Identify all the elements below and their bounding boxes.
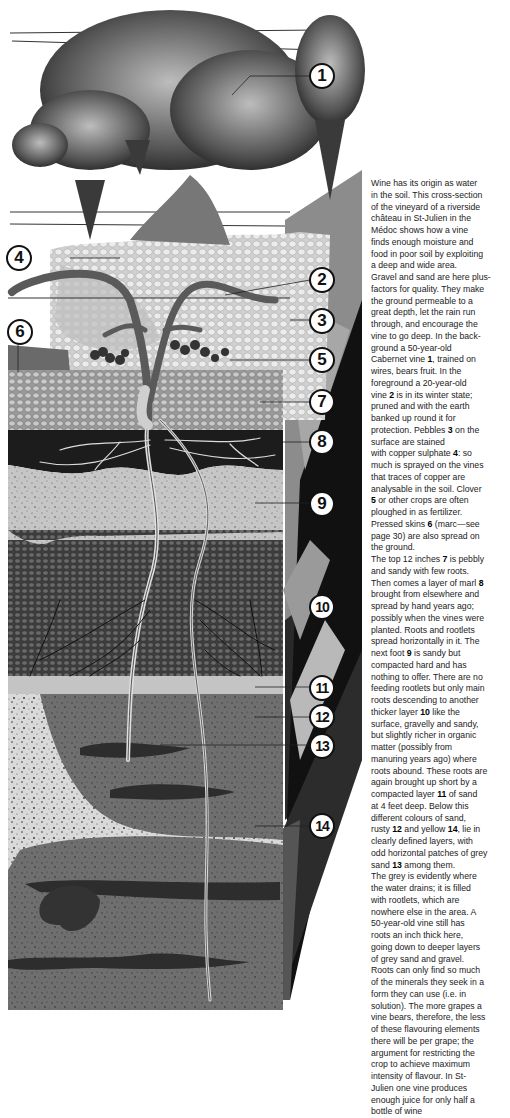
caption-line: compacted hard and has <box>371 660 509 672</box>
caption-text: Wine has its origin as waterin the soil.… <box>371 178 509 1118</box>
caption-line: nothing to offer. There are no <box>371 672 509 684</box>
callout-2: 2 <box>309 267 335 293</box>
caption-line: sand 13 among them. <box>371 860 509 872</box>
callout-6: 6 <box>7 319 33 345</box>
callout-reference: 4 <box>453 448 458 458</box>
callout-12: 12 <box>309 704 335 730</box>
caption-line: manuring years ago) where <box>371 754 509 766</box>
caption-line: great depth, let the rain run <box>371 307 509 319</box>
caption-line: planted. Roots and rootlets <box>371 625 509 637</box>
caption-line: spread horizontally in it. The <box>371 636 509 648</box>
callout-3: 3 <box>309 308 335 334</box>
caption-line: with copper sulphate 4: so <box>371 448 509 460</box>
caption-line: nowhere else in the area. A <box>371 907 509 919</box>
caption-line: Julien one vine produces <box>371 1083 509 1095</box>
caption-line: feeding rootlets but only main <box>371 683 509 695</box>
caption-line: roots an inch thick here, <box>371 930 509 942</box>
callout-reference: 10 <box>420 707 430 717</box>
caption-line: factors for quality. They make <box>371 284 509 296</box>
callout-4: 4 <box>6 245 32 271</box>
callout-11: 11 <box>309 675 335 701</box>
caption-line: in the soil. This cross-section <box>371 190 509 202</box>
caption-line: there will be per grape; the <box>371 1036 509 1048</box>
caption-line: intensity of flavour. In St- <box>371 1071 509 1083</box>
callout-13: 13 <box>309 733 335 759</box>
caption-line: thicker layer 10 like the <box>371 707 509 719</box>
caption-line: foreground a 20-year-old <box>371 378 509 390</box>
caption-line: argument for restricting the <box>371 1048 509 1060</box>
caption-line: analysable in the soil. Clover <box>371 484 509 496</box>
caption-line: at 4 feet deep. Below this <box>371 801 509 813</box>
callout-10: 10 <box>309 594 335 620</box>
caption-line: vine bears, therefore, the less <box>371 1012 509 1024</box>
caption-line: surface are stained <box>371 437 509 449</box>
caption-line: with rootlets, which are <box>371 895 509 907</box>
callout-reference: 6 <box>428 519 433 529</box>
caption-line: of these flavouring elements <box>371 1024 509 1036</box>
callout-reference: 3 <box>448 425 453 435</box>
callout-reference: 8 <box>479 578 484 588</box>
caption-line: finds enough moisture and <box>371 237 509 249</box>
caption-line: that traces of copper are <box>371 472 509 484</box>
caption-line: surface, gravelly and sandy, <box>371 719 509 731</box>
caption-line: next foot 9 is sandy but <box>371 648 509 660</box>
caption-line: vine to go deep. In the back- <box>371 331 509 343</box>
caption-line: wires, bears fruit. In the <box>371 366 509 378</box>
callout-reference: 7 <box>442 554 447 564</box>
callout-reference: 9 <box>407 648 412 658</box>
callout-reference: 14 <box>448 824 458 834</box>
callout-9: 9 <box>309 491 335 517</box>
caption-line: 5 or other crops are often <box>371 495 509 507</box>
callout-reference: 2 <box>389 390 394 400</box>
caption-line: 50-year-old vine still has <box>371 918 509 930</box>
caption-line: compacted layer 11 of sand <box>371 789 509 801</box>
caption-line: vine 2 is in its winter state; <box>371 390 509 402</box>
caption-line: Pressed skins 6 (marc—see <box>371 519 509 531</box>
caption-line: Then comes a layer of marl 8 <box>371 578 509 590</box>
caption-line: The top 12 inches 7 is pebbly <box>371 554 509 566</box>
caption-line: through, and encourage the <box>371 319 509 331</box>
callout-reference: 1 <box>428 354 433 364</box>
caption-line: a deep and wide area. <box>371 260 509 272</box>
caption-line: château in St-Julien in the <box>371 213 509 225</box>
caption-line: the ground. <box>371 542 509 554</box>
caption-line: spread by hand years ago; <box>371 601 509 613</box>
caption-line: possibly when the vines were <box>371 613 509 625</box>
callout-14: 14 <box>309 813 335 839</box>
caption-line: protection. Pebbles 3 on the <box>371 425 509 437</box>
caption-line: clearly defined layers, with <box>371 836 509 848</box>
callout-7: 7 <box>309 389 335 415</box>
caption-line: and sandy with few roots. <box>371 566 509 578</box>
caption-line: Cabernet vine 1, trained on <box>371 354 509 366</box>
caption-line: ground a 50-year-old <box>371 343 509 355</box>
caption-line: of grey sand and gravel. <box>371 954 509 966</box>
caption-line: solution). The more grapes a <box>371 1001 509 1013</box>
caption-line: form they can use (i.e. in <box>371 989 509 1001</box>
caption-line: matter (possibly from <box>371 742 509 754</box>
caption-line: roots abound. These roots are <box>371 766 509 778</box>
caption-line: odd horizontal patches of grey <box>371 848 509 860</box>
caption-line: roots descending to another <box>371 695 509 707</box>
caption-line: Médoc shows how a vine <box>371 225 509 237</box>
caption-line: brought from elsewhere and <box>371 589 509 601</box>
caption-line: bottle of wine <box>371 1106 509 1118</box>
caption-line: Wine has its origin as water <box>371 178 509 190</box>
caption-line: going down to deeper layers <box>371 942 509 954</box>
caption-line: pruned and with the earth <box>371 401 509 413</box>
caption-line: of the vineyard of a riverside <box>371 202 509 214</box>
caption-line: rusty 12 and yellow 14, lie in <box>371 824 509 836</box>
caption-line: enough juice for only half a <box>371 1095 509 1107</box>
caption-line: the ground permeable to a <box>371 296 509 308</box>
caption-line: but slightly richer in organic <box>371 730 509 742</box>
caption-line: banked up round it for <box>371 413 509 425</box>
caption-line: again brought up short by a <box>371 777 509 789</box>
callout-1: 1 <box>309 63 335 89</box>
callout-reference: 11 <box>437 789 446 799</box>
caption-line: The grey is evidently where <box>371 871 509 883</box>
callout-reference: 5 <box>371 495 376 505</box>
caption-line: ploughed in as fertilizer. <box>371 507 509 519</box>
caption-line: Roots can only find so much <box>371 965 509 977</box>
caption-line: of the minerals they seek in a <box>371 977 509 989</box>
callout-reference: 13 <box>392 860 402 870</box>
callout-reference: 12 <box>392 824 402 834</box>
